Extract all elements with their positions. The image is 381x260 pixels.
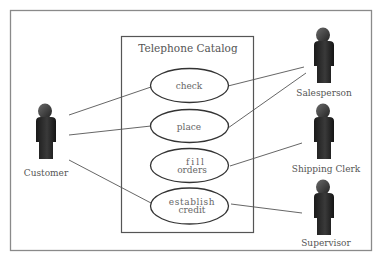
use-case-place-text: place (177, 122, 201, 132)
system-title: Telephone Catalog (138, 42, 237, 54)
use-case-credit-text: credit (169, 206, 215, 214)
actor-supervisor-label: Supervisor (301, 238, 351, 248)
use-case-orders-text: orders (177, 166, 207, 174)
use-case-check-label: check (176, 82, 203, 90)
actor-shipping-clerk-label: Shipping Clerk (292, 164, 361, 174)
use-case-place-label: place (177, 123, 201, 131)
actor-customer-label: Customer (24, 168, 69, 178)
use-case-check-text: check (176, 81, 203, 91)
use-case-fill-orders-label: fill orders (177, 158, 207, 174)
use-case-establish-credit-label: establish credit (169, 198, 215, 214)
actor-salesperson-label: Salesperson (296, 88, 352, 98)
